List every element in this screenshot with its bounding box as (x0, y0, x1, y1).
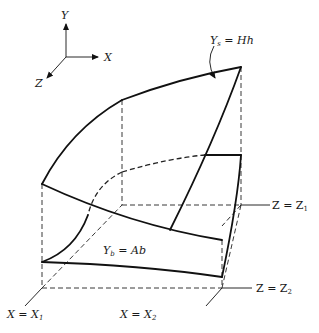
stratigraphic-volume-diagram: Y X Z (0, 0, 319, 333)
x2-leader (206, 288, 222, 306)
top-surface-front-edge (42, 184, 222, 240)
z-axis-arrow (47, 57, 66, 78)
y-axis-label: Y (61, 9, 70, 22)
bottom-surface-front-edge (42, 262, 222, 277)
axes-triad: Y X Z (34, 9, 113, 90)
bottom-surface-left-edge (42, 215, 88, 262)
top-surface-right-edge (170, 67, 241, 230)
x-axis-label: X (103, 51, 113, 64)
bottom-surface (42, 155, 241, 277)
top-surface-label: Ys = Hh (210, 34, 254, 48)
bottom-surface-back-edge-hidden (122, 155, 205, 172)
z-axis-label: Z (34, 77, 43, 90)
x2-label: X = X2 (119, 308, 157, 322)
top-surface (42, 67, 241, 250)
right-bottom-diagonal (222, 205, 241, 288)
x1-label: X = X1 (6, 308, 43, 322)
z1-label: Z = Z1 (272, 199, 308, 213)
z2-label: Z = Z2 (256, 282, 292, 296)
top-surface-back-edge (122, 67, 241, 100)
bounding-box (25, 67, 270, 306)
bottom-surface-left-edge-hidden (88, 172, 122, 215)
x1-leader (25, 288, 42, 306)
bottom-surface-label: Yb = Ab (103, 244, 146, 258)
top-surface-left-edge (42, 100, 122, 184)
